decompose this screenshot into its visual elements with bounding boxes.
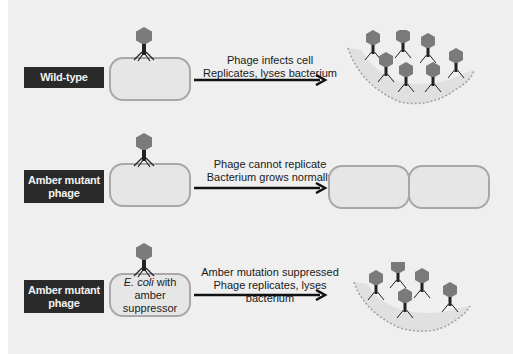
cell-label: E. coli with amber suppressor <box>111 276 189 315</box>
arrow-icon <box>194 289 328 301</box>
arrow-icon <box>194 74 328 86</box>
phage-icon <box>129 242 159 278</box>
caption-row2: Phage cannot replicate Bacterium grows n… <box>195 158 345 184</box>
phage-icon <box>129 132 159 168</box>
bacterium-cell <box>109 163 191 207</box>
caption-line1: Phage infects cell <box>195 54 345 67</box>
label-amber-mutant-suppressor: Amber mutant phage <box>24 280 104 313</box>
phage-icon <box>129 26 159 62</box>
lysed-bacterium-phage-burst-icon <box>340 30 480 110</box>
arrow-icon <box>194 182 328 194</box>
daughter-cell-left <box>328 165 410 209</box>
caption-line1: Phage cannot replicate <box>195 158 345 171</box>
daughter-cell-right <box>408 165 490 209</box>
background-edge <box>0 0 8 354</box>
lysed-bacterium-phage-burst-icon <box>340 262 480 342</box>
suppressor-cell: E. coli with amber suppressor <box>109 273 191 317</box>
caption-line1: Amber mutation suppressed <box>190 266 350 279</box>
label-amber-mutant: Amber mutant phage <box>24 170 104 203</box>
bacterium-cell <box>109 57 191 101</box>
label-wild-type: Wild-type <box>24 67 104 88</box>
